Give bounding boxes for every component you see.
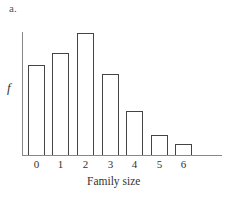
x-axis-label: Family size <box>87 175 140 187</box>
x-axis <box>22 155 222 156</box>
bar-6 <box>175 144 192 155</box>
bar-2 <box>77 33 94 155</box>
y-axis <box>22 32 23 155</box>
y-axis-label: f <box>7 80 11 96</box>
x-tick-2: 2 <box>77 158 94 170</box>
x-tick-4: 4 <box>126 158 143 170</box>
x-tick-1: 1 <box>52 158 69 170</box>
x-tick-0: 0 <box>28 158 45 170</box>
panel-label: a. <box>9 2 17 14</box>
bar-0 <box>28 65 45 155</box>
bar-3 <box>102 74 119 155</box>
bar-5 <box>151 135 168 155</box>
x-tick-6: 6 <box>175 158 192 170</box>
x-tick-3: 3 <box>102 158 119 170</box>
bar-1 <box>52 53 69 155</box>
x-tick-5: 5 <box>151 158 168 170</box>
bar-4 <box>126 111 143 155</box>
